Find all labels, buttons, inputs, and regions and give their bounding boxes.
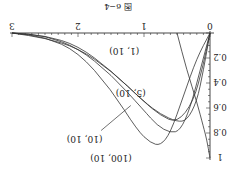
x-tick-label: 1 xyxy=(141,21,147,31)
figure-caption: 图 6−4 xyxy=(104,2,131,11)
x-tick-label: 0 xyxy=(207,21,213,31)
y-tick-label: 0.8 xyxy=(213,127,227,137)
curve-label: (5, 10) xyxy=(116,88,146,98)
curve-label: (10, 10) xyxy=(67,134,103,144)
y-tick-label: 1 xyxy=(217,152,222,162)
x-tick-label: 2 xyxy=(75,21,81,31)
y-tick-label: 0.4 xyxy=(213,77,227,87)
annotation-arrow xyxy=(101,106,131,131)
chart-figure: 图 6−401230.20.40.60.81(1, 10)(5, 10)(10,… xyxy=(0,0,229,169)
line-chart: 图 6−401230.20.40.60.81(1, 10)(5, 10)(10,… xyxy=(0,0,229,169)
curve-label: (100, 10) xyxy=(90,153,131,163)
x-tick-label: 3 xyxy=(9,21,15,31)
y-tick-label: 0.6 xyxy=(213,102,227,112)
curve-label: (1, 10) xyxy=(109,46,139,56)
y-tick-label: 0.2 xyxy=(213,52,227,62)
